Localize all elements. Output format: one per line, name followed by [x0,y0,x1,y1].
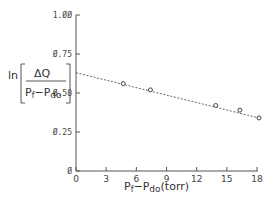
data-point [214,103,218,107]
x-tick-label: 12 [191,174,202,184]
y-tick-label: 1.ØØ [53,10,72,20]
data-point [238,108,242,112]
x-tick-label: 15 [221,174,232,184]
data-points [121,82,261,120]
chart: ØØ.25Ø.50Ø.751.ØØ 0369121518 ln ΔQ Pf−Pd… [0,0,277,204]
axes [76,15,258,171]
data-point [148,88,152,92]
x-axis-label: Pf−Pdo(torr) [124,180,189,194]
y-axis-label: ln ΔQ Pf−Pdo [8,64,70,103]
y-tick-label: Ø [67,166,72,176]
x-tick-label: 0 [73,174,79,184]
y-tick-label: Ø.25 [53,127,72,137]
data-point [121,82,125,86]
y-label-numerator: ΔQ [34,67,51,80]
x-tick-label: 18 [251,174,263,184]
y-label-ln: ln [8,69,18,82]
data-point [257,116,261,120]
y-tick-label: Ø.75 [53,49,72,59]
x-tick-label: 3 [103,174,109,184]
fit-line [76,73,259,118]
fit-line-path [76,73,259,118]
